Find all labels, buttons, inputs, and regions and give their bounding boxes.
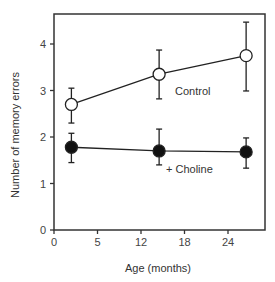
choline-series xyxy=(65,129,252,168)
control-series-label: Control xyxy=(175,85,210,97)
y-axis-ticks: 01234 xyxy=(40,38,54,236)
x-tick-label: 18 xyxy=(178,236,190,248)
control-series xyxy=(65,22,252,123)
plot-frame xyxy=(54,14,265,230)
filled-circle-marker xyxy=(240,146,252,158)
open-circle-marker xyxy=(240,50,252,62)
y-tick-label: 3 xyxy=(40,85,46,97)
choline-series-label: + Choline xyxy=(166,163,213,175)
y-tick-label: 2 xyxy=(40,131,46,143)
y-tick-label: 1 xyxy=(40,178,46,190)
filled-circle-marker xyxy=(65,141,77,153)
y-tick-label: 0 xyxy=(40,224,46,236)
chart: 01234 05121824 Number of memory errors A… xyxy=(0,0,275,282)
x-axis-ticks: 05121824 xyxy=(51,230,234,248)
open-circle-marker xyxy=(153,68,165,80)
data-series xyxy=(65,22,252,168)
x-tick-label: 0 xyxy=(51,236,57,248)
filled-circle-marker xyxy=(153,145,165,157)
x-tick-label: 24 xyxy=(222,236,234,248)
x-axis-label: Age (months) xyxy=(125,262,191,274)
x-tick-label: 5 xyxy=(94,236,100,248)
y-axis-label: Number of memory errors xyxy=(9,72,21,198)
x-tick-label: 12 xyxy=(135,236,147,248)
y-tick-label: 4 xyxy=(40,38,46,50)
open-circle-marker xyxy=(65,98,77,110)
